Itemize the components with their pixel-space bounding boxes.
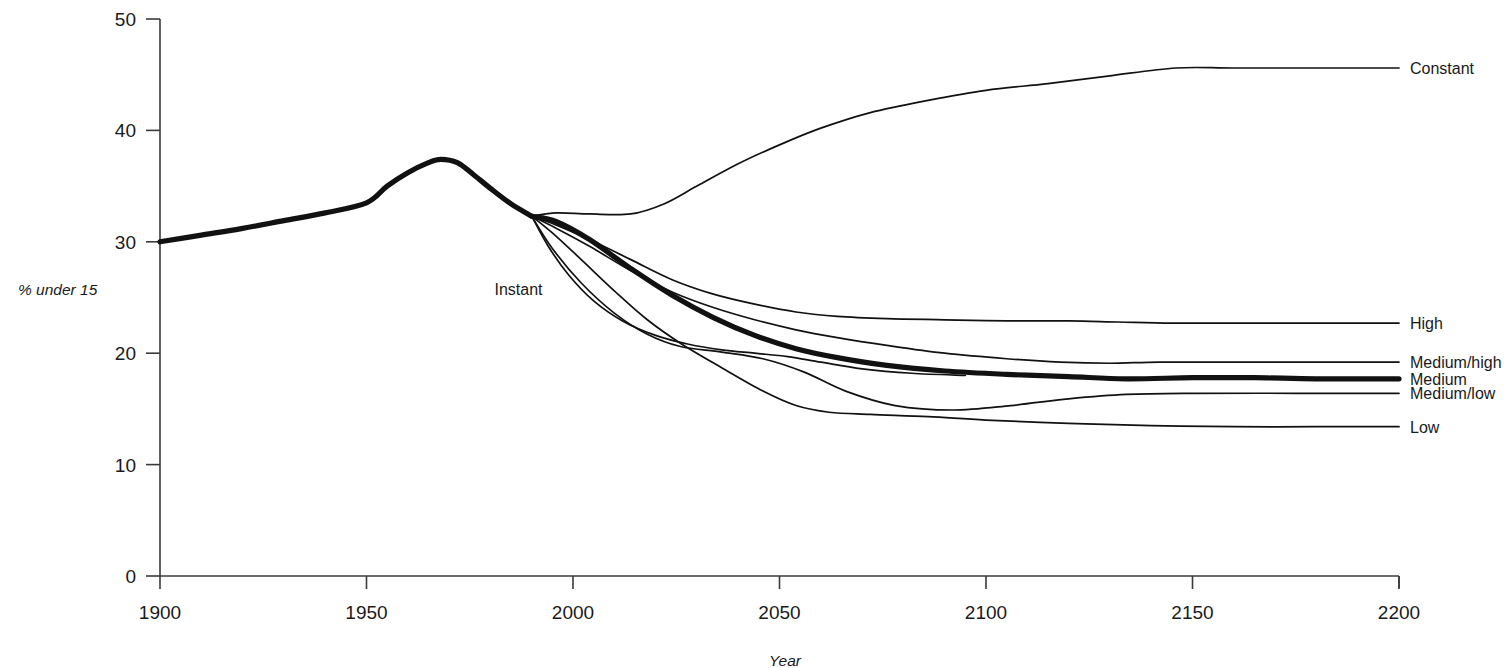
x-axis-ticks: 1900195020002050210021502200 bbox=[139, 576, 1420, 623]
series-line-constant bbox=[532, 67, 1399, 216]
series-labels: ConstantHighMedium/highMediumMedium/lowL… bbox=[1410, 60, 1502, 436]
y-tick-label: 10 bbox=[115, 455, 136, 476]
y-axis-ticks: 01020304050 bbox=[115, 9, 160, 587]
x-tick-label: 2050 bbox=[758, 602, 800, 623]
y-tick-label: 40 bbox=[115, 120, 136, 141]
series-label-high: High bbox=[1410, 315, 1443, 332]
x-tick-label: 2200 bbox=[1378, 602, 1420, 623]
line-chart: 01020304050 1900195020002050210021502200… bbox=[0, 0, 1509, 668]
series-paths bbox=[160, 67, 1399, 426]
series-label-low: Low bbox=[1410, 419, 1440, 436]
x-tick-label: 2100 bbox=[965, 602, 1007, 623]
series-line-instant bbox=[532, 216, 966, 375]
x-tick-label: 2000 bbox=[552, 602, 594, 623]
series-line-high bbox=[532, 216, 1399, 323]
series-line-medium-low bbox=[532, 216, 1399, 410]
annotation-instant: Instant bbox=[495, 281, 544, 298]
series-line-low bbox=[532, 216, 1399, 427]
series-line-historical bbox=[160, 159, 532, 241]
series-label-constant: Constant bbox=[1410, 60, 1475, 77]
chart-container: 01020304050 1900195020002050210021502200… bbox=[0, 0, 1509, 668]
y-tick-label: 30 bbox=[115, 232, 136, 253]
annotations: Instant bbox=[495, 281, 544, 298]
y-tick-label: 50 bbox=[115, 9, 136, 30]
x-tick-label: 2150 bbox=[1171, 602, 1213, 623]
axes bbox=[160, 19, 1399, 588]
series-label-medium-high: Medium/high bbox=[1410, 354, 1502, 371]
y-tick-label: 0 bbox=[125, 566, 136, 587]
y-axis-title: % under 15 bbox=[18, 281, 98, 298]
x-tick-label: 1950 bbox=[345, 602, 387, 623]
x-axis-title: Year bbox=[769, 652, 802, 668]
x-tick-label: 1900 bbox=[139, 602, 181, 623]
y-tick-label: 20 bbox=[115, 343, 136, 364]
series-label-medium-low: Medium/low bbox=[1410, 385, 1496, 402]
